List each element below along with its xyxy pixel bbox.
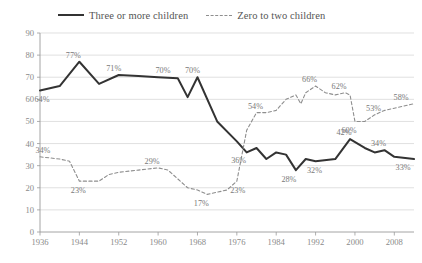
data-label: 33% [396,163,411,172]
data-label: 17% [194,199,209,208]
y-tick-label: 70 [25,72,34,82]
x-tick-label: 1984 [268,237,286,247]
data-label: 71% [106,64,121,73]
data-label: 53% [366,104,381,113]
y-tick-label: 60 [25,94,34,104]
x-axis-tick-labels: 1936194419521960196819761984199220002008 [31,237,403,247]
x-tick-label: 1960 [150,237,167,247]
data-label: 23% [71,186,86,195]
data-label: 60% [341,126,356,135]
data-label: 70% [185,66,200,75]
y-tick-label: 0 [30,227,34,237]
data-label: 36% [231,156,246,165]
axis-lines [37,33,414,232]
x-tick-label: 1952 [110,237,127,247]
plot-area: 0102030405060708090 19361944195219601968… [0,0,422,263]
y-tick-label: 50 [25,116,34,126]
y-tick-label: 40 [25,139,34,149]
data-label: 34% [371,139,386,148]
data-label: 28% [281,175,296,184]
data-label: 66% [302,75,317,84]
data-label: 70% [155,66,170,75]
x-tick-label: 1936 [31,237,49,247]
y-tick-label: 30 [25,161,34,171]
data-label: 58% [394,93,409,102]
data-label: 54% [248,102,263,111]
x-tick-label: 1976 [228,237,246,247]
data-label: 34% [35,146,50,155]
data-label: 62% [332,82,347,91]
y-tick-label: 80 [25,50,34,60]
x-tick-label: 1992 [307,237,324,247]
data-label: 32% [307,166,322,175]
data-label: 29% [145,157,160,166]
y-tick-label: 90 [25,28,34,38]
line-chart: Three or more children Zero to two child… [0,0,422,263]
series-line-dashed [40,86,414,194]
data-label: 77% [66,51,81,60]
x-tick-label: 1968 [189,237,206,247]
data-series [40,62,414,195]
y-tick-label: 10 [25,205,34,215]
x-tick-label: 1944 [71,237,89,247]
y-axis-tick-labels: 0102030405060708090 [25,28,34,237]
x-tick-label: 2000 [346,237,363,247]
x-tick-label: 2008 [386,237,403,247]
data-label: 23% [230,186,245,195]
y-tick-label: 20 [25,183,34,193]
data-label: 64% [34,95,49,104]
series-line-solid [40,62,414,170]
x-axis-tick-marks [40,232,394,236]
